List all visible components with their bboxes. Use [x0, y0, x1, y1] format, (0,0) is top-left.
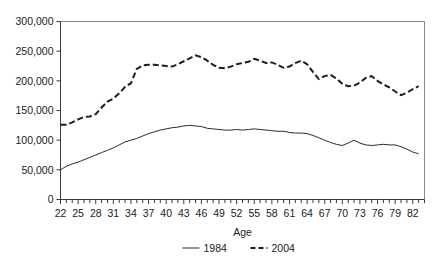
- x-tick-label: 58: [266, 207, 278, 219]
- x-tick-label: 64: [301, 207, 313, 219]
- y-tick-label: 250,000: [16, 45, 54, 57]
- x-tick-label: 31: [107, 207, 119, 219]
- x-tick-label: 76: [372, 207, 384, 219]
- y-tick-label: 200,000: [16, 75, 54, 87]
- x-tick-label: 22: [55, 207, 67, 219]
- x-tick-label: 70: [336, 207, 348, 219]
- x-axis-title: Age: [233, 226, 252, 238]
- x-tick-label: 46: [196, 207, 208, 219]
- y-tick-label: 150,000: [16, 104, 54, 116]
- x-tick-label: 28: [90, 207, 102, 219]
- series-line-1984: [61, 125, 419, 170]
- y-tick-label: 0: [48, 193, 54, 205]
- y-tick-label: 100,000: [16, 134, 54, 146]
- chart-container: 050,000100,000150,000200,000250,000300,0…: [0, 0, 437, 264]
- x-tick-label: 82: [407, 207, 419, 219]
- x-tick-label: 73: [354, 207, 366, 219]
- legend-label-1984: 1984: [204, 242, 228, 254]
- x-tick-label: 34: [125, 207, 137, 219]
- series-line-2004: [61, 55, 419, 124]
- x-tick-label: 25: [72, 207, 84, 219]
- x-tick-label: 79: [389, 207, 401, 219]
- y-tick-label: 50,000: [21, 164, 53, 176]
- x-tick-label: 52: [231, 207, 243, 219]
- x-tick-label: 40: [160, 207, 172, 219]
- legend-label-2004: 2004: [272, 242, 296, 254]
- x-tick-label: 43: [178, 207, 190, 219]
- x-tick-label: 37: [143, 207, 155, 219]
- x-tick-label: 67: [319, 207, 331, 219]
- plot-frame: [61, 22, 425, 200]
- x-tick-label: 61: [284, 207, 296, 219]
- y-tick-label: 300,000: [16, 15, 54, 27]
- line-chart: 050,000100,000150,000200,000250,000300,0…: [0, 0, 437, 264]
- x-tick-label: 55: [248, 207, 260, 219]
- x-tick-label: 49: [213, 207, 225, 219]
